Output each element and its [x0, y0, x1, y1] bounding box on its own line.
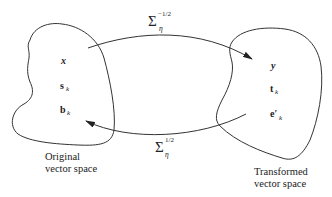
operator-subscript: η	[159, 24, 163, 33]
vector-t: t	[270, 83, 274, 94]
vector-s: s	[60, 80, 64, 91]
vector-s-subscript: k	[66, 85, 70, 93]
transformed-space-caption-line1: Transformed	[254, 166, 309, 177]
transformed-space-caption-line2: vector space	[254, 178, 307, 189]
original-space-caption-line2: vector space	[45, 163, 98, 174]
original-space-caption-line1: Original	[45, 151, 80, 162]
vector-b: b	[60, 104, 66, 115]
inverse-transform-arrow	[86, 114, 246, 135]
operator-subscript: η	[165, 150, 169, 159]
sigma-symbol: Σ	[155, 139, 164, 155]
vector-b-subscript: k	[67, 109, 71, 117]
original-vectors: x s k b k	[60, 55, 71, 117]
sigma-symbol: Σ	[148, 13, 157, 29]
vector-y: y	[270, 60, 276, 71]
vector-e-prime: e′	[270, 108, 277, 119]
transformed-vectors: y t k e′ k	[270, 60, 283, 122]
operator-superscript: 1/2	[165, 136, 174, 144]
vector-x: x	[60, 55, 66, 66]
vector-t-subscript: k	[275, 88, 279, 96]
vector-e-subscript: k	[279, 114, 283, 122]
operator-superscript: −1/2	[158, 10, 171, 18]
forward-operator-label: Σ −1/2 η	[148, 10, 171, 33]
forward-transform-arrow	[88, 35, 252, 59]
inverse-operator-label: Σ 1/2 η	[155, 136, 174, 159]
diagram-canvas: Σ −1/2 η Σ 1/2 η x s k b k y t k e′ k Or…	[0, 0, 332, 197]
